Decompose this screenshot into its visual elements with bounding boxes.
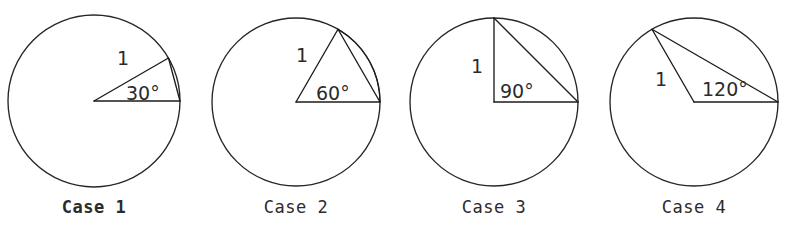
case-1-angle-label: 30° [126, 82, 160, 104]
case-2-radius-label: 1 [296, 44, 308, 66]
case-1-chord [168, 58, 180, 101]
case-4-group: 1 120° Case 4 [610, 18, 778, 217]
case-4-angle-label: 120° [702, 78, 748, 100]
case-3-group: 1 90° Case 3 [410, 18, 578, 217]
case-3-angle-label: 90° [500, 80, 534, 102]
case-1-group: 1 30° Case 1 [8, 15, 180, 217]
case-1-caption: Case 1 [62, 197, 126, 217]
case-3-radius-label: 1 [471, 55, 483, 77]
case-4-radius-angled [652, 29, 694, 102]
case-3-caption: Case 3 [462, 197, 526, 217]
case-2-angle-label: 60° [316, 82, 350, 104]
circle-cases-figure: 1 30° Case 1 1 60° Case 2 1 90° Case 3 [0, 0, 788, 225]
case-4-radius-label: 1 [655, 68, 667, 90]
case-2-caption: Case 2 [264, 197, 328, 217]
case-1-radius-label: 1 [117, 47, 129, 69]
figure-canvas: 1 30° Case 1 1 60° Case 2 1 90° Case 3 [0, 0, 788, 225]
case-2-group: 1 60° Case 2 [212, 18, 380, 217]
case-4-caption: Case 4 [662, 197, 726, 217]
